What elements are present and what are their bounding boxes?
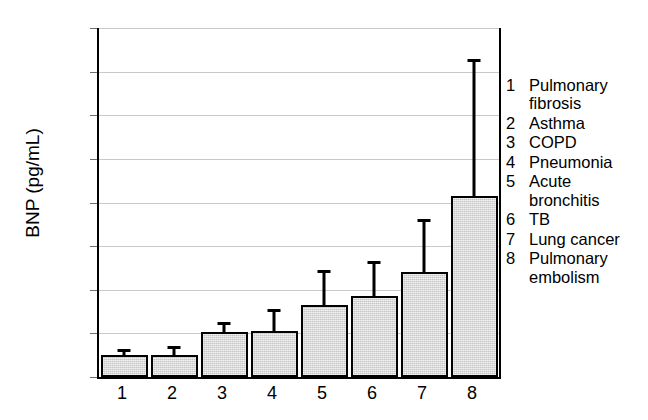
legend-item-label: Pneumonia	[522, 153, 648, 171]
gridline	[99, 159, 499, 160]
legend-item: 2Asthma	[506, 114, 648, 132]
error-bar-stem	[273, 309, 276, 331]
x-tick-label: 4	[267, 384, 277, 402]
y-tick-mark	[90, 159, 97, 160]
error-bar-cap	[468, 59, 481, 62]
y-tick-mark	[90, 333, 97, 334]
legend-item: 4Pneumonia	[506, 153, 648, 171]
x-tick-label: 6	[367, 384, 377, 402]
legend-item-number: 7	[506, 230, 522, 248]
x-tick-label: 3	[217, 384, 227, 402]
bar	[351, 296, 398, 377]
error-bar-stem	[423, 219, 426, 272]
legend-item-number: 8	[506, 249, 522, 267]
y-tick-mark	[90, 203, 97, 204]
legend-item-label: Pulmonary embolism	[522, 249, 648, 286]
legend-item: 1Pulmonary fibrosis	[506, 76, 648, 113]
legend-item-label: COPD	[522, 133, 648, 151]
bar	[201, 332, 248, 377]
legend-item: 3COPD	[506, 133, 648, 151]
legend-item-number: 1	[506, 76, 522, 94]
error-bar-cap	[368, 261, 381, 264]
legend-item-number: 6	[506, 210, 522, 228]
x-tick-label: 8	[467, 384, 477, 402]
error-bar-stem	[373, 261, 376, 296]
error-bar-cap	[268, 309, 281, 312]
legend-item: 5Acute bronchitis	[506, 172, 648, 209]
error-bar-cap	[218, 322, 231, 325]
gridline	[99, 115, 499, 116]
bar	[101, 355, 148, 377]
error-bar-cap	[168, 346, 181, 349]
legend-item-label: Pulmonary fibrosis	[522, 76, 648, 113]
bar	[151, 355, 198, 377]
bar	[251, 331, 298, 377]
legend-item: 7Lung cancer	[506, 230, 648, 248]
y-tick-mark	[90, 377, 97, 378]
y-tick-mark	[90, 115, 97, 116]
legend-item-label: Lung cancer	[522, 230, 648, 248]
legend: 1Pulmonary fibrosis2Asthma3COPD4Pneumoni…	[506, 76, 648, 287]
error-bar-cap	[118, 349, 131, 352]
gridline	[99, 246, 499, 247]
gridline	[99, 72, 499, 73]
y-tick-mark	[90, 246, 97, 247]
y-tick-mark	[90, 28, 97, 29]
legend-item-number: 4	[506, 153, 522, 171]
bnp-bar-chart-figure: BNP (pg/mL) 400350300250200150100500 123…	[0, 0, 648, 420]
error-bar-stem	[473, 59, 476, 195]
y-tick-mark	[90, 72, 97, 73]
legend-item-label: TB	[522, 210, 648, 228]
bar	[301, 305, 348, 377]
bar	[451, 196, 498, 377]
legend-item-label: Asthma	[522, 114, 648, 132]
x-tick-label: 7	[417, 384, 427, 402]
gridline	[99, 203, 499, 204]
legend-item-number: 2	[506, 114, 522, 132]
error-bar-stem	[323, 270, 326, 305]
legend-item: 8Pulmonary embolism	[506, 249, 648, 286]
x-tick-label: 2	[167, 384, 177, 402]
legend-item: 6TB	[506, 210, 648, 228]
plot-area	[97, 28, 501, 379]
y-axis-title: BNP (pg/mL)	[22, 93, 44, 273]
bar	[401, 272, 448, 377]
x-tick-label: 1	[117, 384, 127, 402]
x-tick-label: 5	[317, 384, 327, 402]
error-bar-cap	[318, 270, 331, 273]
error-bar-cap	[418, 219, 431, 222]
y-tick-mark	[90, 290, 97, 291]
legend-item-number: 3	[506, 133, 522, 151]
legend-item-label: Acute bronchitis	[522, 172, 648, 209]
gridline	[99, 28, 499, 29]
legend-item-number: 5	[506, 172, 522, 190]
